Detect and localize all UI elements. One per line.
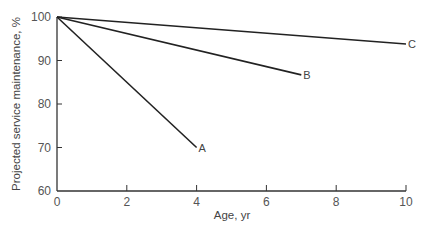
y-tick-label: 60	[38, 184, 52, 198]
series-line-c	[57, 17, 406, 44]
x-tick-label: 4	[193, 195, 200, 209]
y-axis-label: Projected service maintenance, %	[10, 17, 22, 191]
x-tick-label: 8	[333, 195, 340, 209]
line-chart: 024681060708090100 ABC Age, yr Projected…	[0, 0, 423, 228]
y-tick-label: 100	[31, 10, 51, 24]
series-label-c: C	[408, 38, 416, 50]
y-tick-label: 90	[38, 54, 52, 68]
series-label-b: B	[303, 69, 310, 81]
x-tick-label: 2	[123, 195, 130, 209]
y-tick-label: 80	[38, 97, 52, 111]
x-tick-label: 10	[399, 195, 413, 209]
series-label-a: A	[199, 142, 207, 154]
series-line-a	[57, 17, 197, 148]
y-tick-label: 70	[38, 141, 52, 155]
series-group: ABC	[57, 17, 416, 154]
x-tick-label: 0	[54, 195, 61, 209]
axes	[57, 17, 406, 191]
x-axis-label: Age, yr	[214, 209, 251, 221]
x-tick-label: 6	[263, 195, 270, 209]
